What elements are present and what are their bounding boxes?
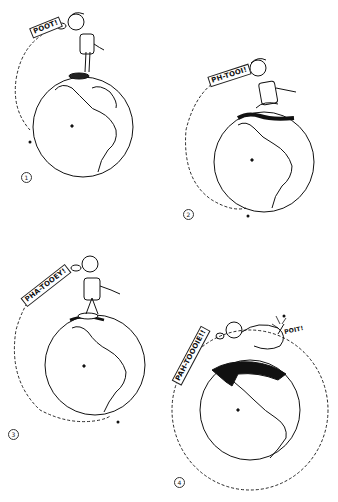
- panel-4-drawing: [168, 250, 338, 502]
- globe: [33, 77, 133, 177]
- spit-trajectory: [186, 72, 246, 209]
- spit-drop: [247, 215, 250, 218]
- panel-3: PHA-TOOEY! 3: [0, 250, 170, 502]
- panel-number-2: 2: [183, 209, 194, 220]
- panel-4: PAH-TOOOIE!! POIT! 4: [168, 250, 338, 502]
- panel-2: PH-TOOI! 2: [168, 0, 338, 250]
- boy-figure: [216, 322, 284, 349]
- spit-drop: [29, 141, 32, 144]
- globe: [45, 315, 145, 415]
- panel-3-drawing: [0, 250, 170, 502]
- boy-figure: [71, 256, 120, 319]
- spit-trajectory: [15, 28, 56, 130]
- globe: [200, 360, 300, 460]
- panel-number-1: 1: [21, 172, 32, 183]
- globe: [214, 112, 314, 212]
- panel-number-3: 3: [8, 429, 19, 440]
- spit-drop: [117, 421, 120, 424]
- panel-1: POOT! 1: [0, 0, 170, 250]
- panel-1-drawing: [0, 0, 170, 250]
- panel-number-4: 4: [174, 477, 185, 488]
- boy-figure: [56, 13, 104, 79]
- spit-drop: [283, 315, 286, 318]
